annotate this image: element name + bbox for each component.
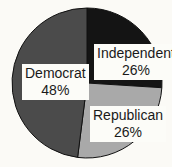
slice-label-independent: Independent 26% xyxy=(94,44,172,80)
label-percent: 26% xyxy=(97,62,172,79)
label-percent: 48% xyxy=(25,82,86,99)
slice-label-democrat: Democrat 48% xyxy=(22,64,89,100)
label-name: Republican xyxy=(93,107,163,124)
label-name: Democrat xyxy=(25,65,86,82)
label-percent: 26% xyxy=(93,124,163,141)
slice-label-republican: Republican 26% xyxy=(90,106,166,142)
label-name: Independent xyxy=(97,45,172,62)
